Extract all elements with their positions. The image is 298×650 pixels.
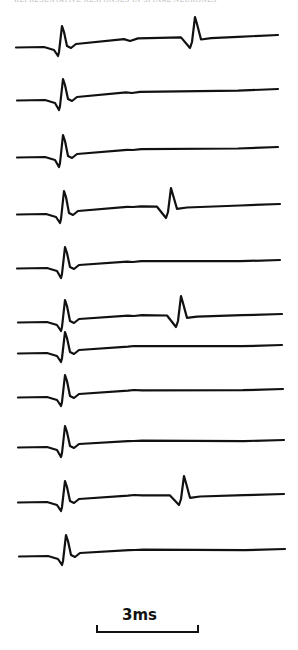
sweep-trace-9 — [18, 426, 284, 457]
sweep-trace-6 — [18, 296, 282, 331]
scale-bar — [97, 625, 198, 632]
sweep-trace-11 — [19, 535, 285, 565]
sweep-trace-8 — [18, 375, 283, 406]
sweep-trace-4 — [17, 188, 280, 223]
sweep-trace-10 — [18, 476, 284, 511]
sweep-trace-3 — [17, 135, 278, 167]
sweep-trace-7 — [18, 332, 282, 362]
sweep-trace-2 — [17, 79, 278, 110]
scale-bar-label: 3ms — [122, 606, 157, 624]
sweep-trace-1 — [16, 17, 278, 56]
sweep-traces-plot — [0, 0, 298, 650]
trace-group — [16, 17, 285, 565]
sweep-trace-5 — [17, 247, 280, 278]
